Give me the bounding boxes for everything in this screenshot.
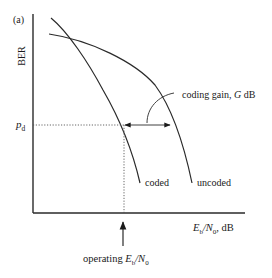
pd-label: pd <box>15 118 26 133</box>
coding-gain-callout-line <box>147 93 174 123</box>
coded-curve <box>51 18 140 183</box>
panel-label: (a) <box>13 14 24 26</box>
operating-label: operating Eb/N0 <box>83 253 149 267</box>
coding-gain-label: coding gain, G dB <box>182 89 256 100</box>
coded-label: coded <box>145 177 169 188</box>
coding-gain-diagram: (a) BER pd coding gain, G dB coded uncod… <box>0 0 272 278</box>
uncoded-label: uncoded <box>197 177 231 188</box>
x-axis-label: Eb/N0, dB <box>192 222 234 236</box>
uncoded-curve <box>49 34 192 183</box>
y-axis-label: BER <box>16 46 27 66</box>
